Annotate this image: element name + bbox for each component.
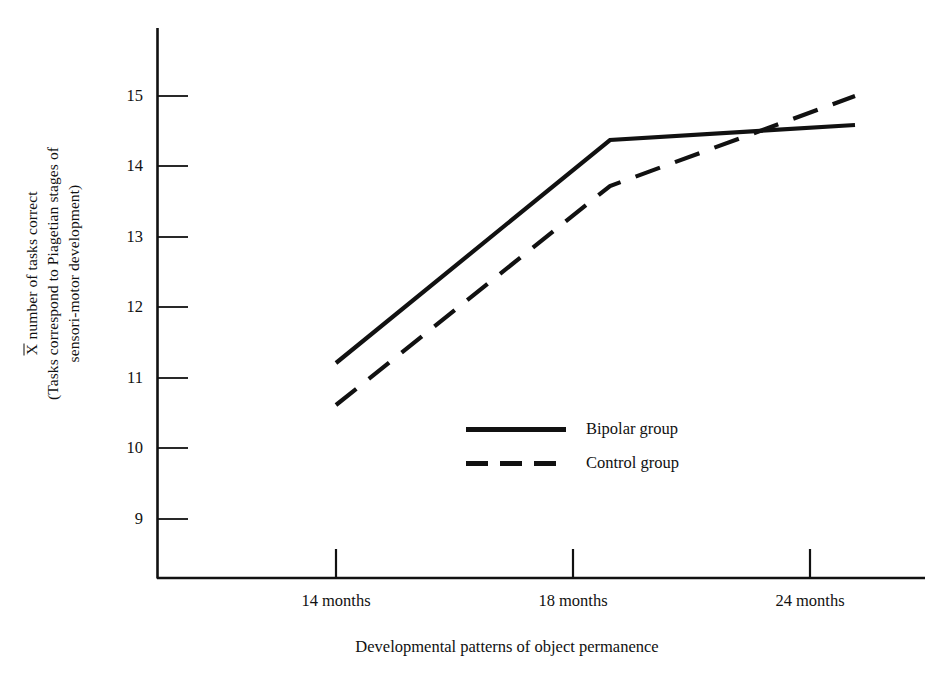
y-axis-ticks bbox=[157, 96, 188, 519]
series-line-control-group bbox=[336, 96, 855, 405]
x-tick-label-14-months: 14 months bbox=[261, 593, 411, 609]
chart-figure: X number of tasks correct (Tasks corresp… bbox=[0, 0, 934, 675]
x-axis-ticks bbox=[336, 549, 810, 578]
x-tick-label-18-months: 18 months bbox=[498, 593, 648, 609]
series-line-bipolar-group bbox=[336, 125, 855, 363]
x-tick-label-24-months: 24 months bbox=[735, 593, 885, 609]
legend-swatch-solid-line bbox=[466, 427, 566, 432]
x-axis-label: Developmental patterns of object permane… bbox=[157, 637, 857, 657]
legend-label-control-group: Control group bbox=[586, 452, 679, 474]
legend-label-bipolar-group: Bipolar group bbox=[586, 418, 678, 440]
legend-swatch-dashed-line bbox=[466, 461, 566, 466]
plot-area bbox=[0, 0, 934, 675]
